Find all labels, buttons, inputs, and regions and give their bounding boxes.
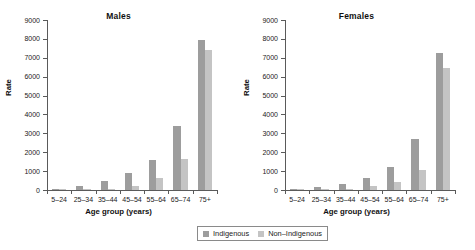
bar-non-indigenous-0-males (59, 189, 66, 190)
x-axis-title-females: Age group (years) (238, 207, 475, 216)
y-tick-5000-males (43, 96, 47, 97)
y-tick-label-6000-males: 6000 (0, 73, 40, 80)
bar-non-indigenous-4-males (156, 178, 163, 190)
bar-indigenous-6-females (436, 53, 443, 190)
bar-indigenous-4-females (387, 167, 394, 190)
y-tick-label-6000-females: 6000 (238, 73, 278, 80)
bar-indigenous-2-males (101, 181, 108, 190)
x-tick-label-4-males: 55–64 (144, 196, 168, 204)
x-tick-label-0-females: 5–24 (285, 196, 309, 204)
y-tick-label-5000-males: 5000 (0, 92, 40, 99)
bar-indigenous-1-females (314, 187, 321, 190)
bar-non-indigenous-6-females (443, 68, 450, 190)
y-tick-1000-females (281, 171, 285, 172)
bar-indigenous-5-males (173, 126, 180, 190)
legend-label-non-indigenous: Non–Indigenous (268, 229, 322, 238)
y-tick-7000-males (43, 58, 47, 59)
x-tick-3-males (120, 191, 121, 194)
legend-label-indigenous: Indigenous (213, 229, 249, 238)
chart-panel-males: Males Rate Age group (years) 01000200030… (0, 0, 237, 222)
y-tick-8000-females (281, 39, 285, 40)
y-tick-label-3000-females: 3000 (238, 130, 278, 137)
x-tick-0-males (47, 191, 48, 194)
bar-non-indigenous-4-females (394, 182, 401, 190)
x-tick-end-males (217, 191, 218, 194)
bar-non-indigenous-5-males (181, 159, 188, 190)
bar-indigenous-1-males (76, 186, 83, 190)
x-tick-3-females (358, 191, 359, 194)
y-tick-9000-females (281, 20, 285, 21)
y-tick-label-8000-females: 8000 (238, 35, 278, 42)
x-tick-2-males (96, 191, 97, 194)
x-tick-1-females (309, 191, 310, 194)
y-tick-6000-males (43, 77, 47, 78)
bar-non-indigenous-2-males (108, 189, 115, 190)
bar-non-indigenous-2-females (346, 189, 353, 190)
x-tick-label-1-females: 25–34 (309, 196, 333, 204)
x-tick-label-5-females: 65–74 (406, 196, 430, 204)
x-tick-0-females (285, 191, 286, 194)
bar-non-indigenous-3-females (370, 186, 377, 190)
x-tick-end-females (455, 191, 456, 194)
x-tick-6-females (431, 191, 432, 194)
x-tick-1-males (71, 191, 72, 194)
y-tick-label-0-males: 0 (0, 187, 40, 194)
bar-non-indigenous-0-females (297, 189, 304, 190)
x-tick-label-6-females: 75+ (431, 196, 455, 204)
y-tick-2000-males (43, 152, 47, 153)
bar-non-indigenous-6-males (205, 50, 212, 190)
x-tick-label-2-males: 35–44 (96, 196, 120, 204)
bar-non-indigenous-5-females (419, 170, 426, 190)
legend-swatch-indigenous (203, 231, 209, 237)
y-tick-label-8000-males: 8000 (0, 35, 40, 42)
x-axis-title-males: Age group (years) (0, 207, 237, 216)
y-tick-7000-females (281, 58, 285, 59)
plot-area-females (285, 20, 455, 190)
bar-non-indigenous-1-males (83, 189, 90, 190)
y-tick-label-7000-females: 7000 (238, 54, 278, 61)
legend-item-indigenous: Indigenous (203, 229, 249, 238)
x-tick-4-males (144, 191, 145, 194)
y-tick-label-4000-males: 4000 (0, 111, 40, 118)
chart-panel-females: Females Rate Age group (years) 010002000… (238, 0, 475, 222)
x-tick-5-females (406, 191, 407, 194)
y-tick-6000-females (281, 77, 285, 78)
bar-indigenous-0-females (290, 189, 297, 190)
y-tick-4000-males (43, 114, 47, 115)
figure-root: Males Rate Age group (years) 01000200030… (0, 0, 475, 250)
legend-swatch-non-indigenous (258, 231, 264, 237)
bar-indigenous-4-males (149, 160, 156, 190)
x-tick-label-2-females: 35–44 (334, 196, 358, 204)
x-tick-label-3-females: 45–54 (358, 196, 382, 204)
bar-indigenous-3-males (125, 173, 132, 190)
y-tick-label-5000-females: 5000 (238, 92, 278, 99)
plot-area-males (47, 20, 217, 190)
y-tick-4000-females (281, 114, 285, 115)
y-tick-label-2000-males: 2000 (0, 149, 40, 156)
y-tick-label-0-females: 0 (238, 187, 278, 194)
y-tick-label-4000-females: 4000 (238, 111, 278, 118)
x-tick-label-5-males: 65–74 (168, 196, 192, 204)
x-tick-2-females (334, 191, 335, 194)
x-tick-label-6-males: 75+ (193, 196, 217, 204)
y-tick-label-2000-females: 2000 (238, 149, 278, 156)
bar-non-indigenous-3-males (132, 186, 139, 190)
legend-item-non-indigenous: Non–Indigenous (258, 229, 322, 238)
y-tick-label-9000-males: 9000 (0, 17, 40, 24)
x-tick-5-males (168, 191, 169, 194)
y-tick-3000-males (43, 133, 47, 134)
chart-legend: Indigenous Non–Indigenous (197, 226, 328, 241)
y-tick-8000-males (43, 39, 47, 40)
y-tick-1000-males (43, 171, 47, 172)
y-tick-9000-males (43, 20, 47, 21)
bar-indigenous-5-females (411, 139, 418, 190)
y-tick-3000-females (281, 133, 285, 134)
bar-indigenous-3-females (363, 178, 370, 190)
y-tick-2000-females (281, 152, 285, 153)
x-tick-label-1-males: 25–34 (71, 196, 95, 204)
bar-indigenous-6-males (198, 40, 205, 190)
bar-non-indigenous-1-females (321, 189, 328, 190)
y-tick-label-1000-males: 1000 (0, 168, 40, 175)
bar-indigenous-0-males (52, 189, 59, 190)
y-tick-label-3000-males: 3000 (0, 130, 40, 137)
